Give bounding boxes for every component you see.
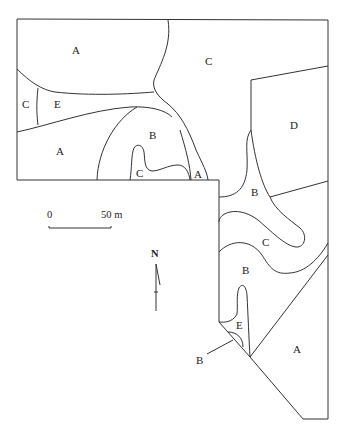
callout-leader [207,340,233,354]
zone-label-a: A [194,168,202,180]
zone-label-a: A [293,343,301,355]
zone-label-b: B [251,186,258,198]
boundary-b-right [219,130,305,247]
boundary-a-c-top [154,20,208,180]
zone-label-c: C [262,236,269,248]
zone-label-e: E [236,319,243,331]
boundary-c-b-lower [219,243,328,274]
boundary-a-bottom-right [250,255,328,357]
boundary-c-e-left [37,88,38,125]
zone-label-b: B [242,264,249,276]
scale-start-label: 0 [47,209,52,220]
scale-end-label: 50 m [101,209,122,220]
zone-label-e: E [54,98,61,110]
zone-label-d: D [290,119,298,131]
zone-label-b: B [149,129,156,141]
north-label: N [151,248,159,259]
zone-label-a: A [56,145,64,157]
zone-label-c: C [22,98,29,110]
zone-label-b: B [196,354,203,366]
site-boundary [17,19,328,419]
zone-label-c: C [136,167,143,179]
zone-map: A C C E A B C A D B C B E B A 0 50 m N [0,0,344,434]
zone-label-a: A [72,44,80,56]
boundary-a-small [180,130,191,180]
boundary-d-bottom [270,181,328,197]
zone-label-c: C [205,55,212,67]
north-arrow-icon [154,264,160,311]
boundary-e-lower [219,285,250,357]
scale-bar [49,226,111,228]
